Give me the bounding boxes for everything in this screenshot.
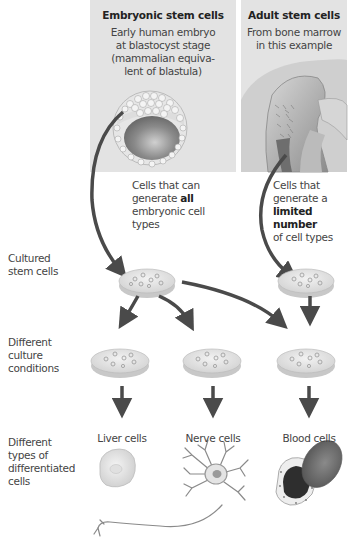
- liver-cell-icon: [100, 449, 136, 487]
- dish-adult-cultured: [278, 269, 334, 298]
- row-label-cultured: Cultured stem cells: [8, 252, 58, 278]
- blastocyst-illustration: [113, 91, 187, 167]
- row-label-differentiated: Different types of differentiated cells: [8, 436, 75, 488]
- row-label-conditions: Different culture conditions: [8, 336, 59, 375]
- dish-embryonic-cultured: [119, 269, 175, 298]
- arrow-to-condition-2: [159, 296, 189, 322]
- dish-condition-1: [91, 349, 149, 378]
- bone-marrow-illustration: [241, 58, 347, 172]
- blood-cell-icon: [276, 433, 350, 505]
- adult-note: Cells that generate a limited number of …: [273, 179, 357, 244]
- embryonic-note: Cells that can generate all embryonic ce…: [132, 179, 205, 231]
- label-liver-cells: Liver cells: [82, 432, 162, 444]
- label-blood-cells: Blood cells: [269, 432, 349, 444]
- dish-condition-2: [183, 349, 241, 378]
- label-nerve-cells: Nerve cells: [173, 432, 253, 444]
- arrow-to-condition-3: [182, 282, 280, 322]
- arrow-to-condition-1: [124, 296, 138, 320]
- dish-condition-3: [277, 349, 335, 378]
- petri-dishes: [91, 269, 335, 378]
